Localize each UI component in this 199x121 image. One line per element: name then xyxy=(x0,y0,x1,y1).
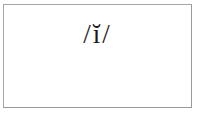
content-frame: /ĭ/ xyxy=(3,4,192,108)
phonetic-transcription: /ĭ/ xyxy=(83,21,112,48)
transcription-area: /ĭ/ xyxy=(4,5,191,107)
screenshot-root: /ĭ/ xyxy=(0,0,199,121)
